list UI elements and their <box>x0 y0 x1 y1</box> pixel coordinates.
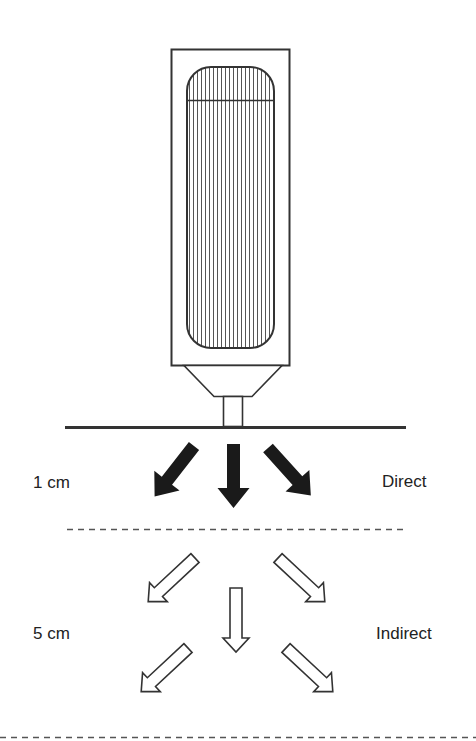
device-funnel <box>184 366 282 397</box>
indirect-arrows <box>132 548 341 701</box>
direct-arrows <box>142 436 323 508</box>
probe-device <box>172 50 290 427</box>
zone2-distance-label: 5 cm <box>33 624 70 644</box>
hollow-arrow-lower-left-icon <box>132 638 197 701</box>
hollow-arrow-down-icon <box>223 588 249 652</box>
device-window <box>187 67 274 348</box>
hollow-arrow-lower-right-icon <box>277 638 342 701</box>
hollow-arrow-upper-right-icon <box>269 548 334 611</box>
zone1-mode-label: Direct <box>382 472 426 492</box>
solid-arrow-right-icon <box>256 437 323 506</box>
zone2-mode-label: Indirect <box>376 624 432 644</box>
device-stem <box>224 397 243 427</box>
hollow-arrow-upper-left-icon <box>139 548 204 611</box>
solid-arrow-left-icon <box>142 436 207 506</box>
solid-arrow-down-icon <box>218 444 250 508</box>
zone1-distance-label: 1 cm <box>33 473 70 493</box>
